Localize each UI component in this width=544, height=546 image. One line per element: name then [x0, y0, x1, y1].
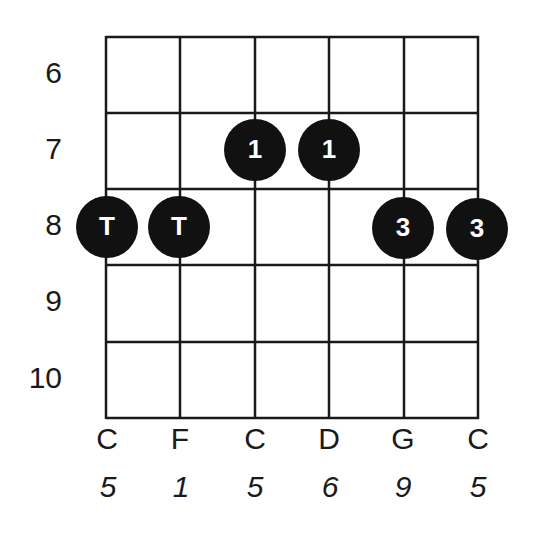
finger-dot: 1	[224, 119, 286, 181]
interval-labels: 5 1 5 6 9 5	[100, 470, 487, 503]
finger-dot: 3	[372, 197, 434, 259]
interval-label: 6	[322, 470, 339, 503]
note-label: C	[244, 422, 266, 455]
note-label: C	[467, 422, 489, 455]
fret-labels: 6 7 8 9 10	[29, 56, 62, 394]
finger-label: 3	[396, 212, 410, 242]
finger-label: 1	[248, 134, 262, 164]
finger-label: 1	[322, 134, 336, 164]
finger-dot: T	[76, 196, 138, 258]
interval-label: 1	[173, 470, 190, 503]
note-label: C	[96, 422, 118, 455]
finger-label: T	[171, 211, 187, 241]
chord-diagram: 6 7 8 9 10 T T 1 1 3 3	[0, 0, 544, 546]
note-labels: C F C D G C	[96, 422, 489, 455]
interval-label: 5	[470, 470, 487, 503]
interval-label: 5	[247, 470, 264, 503]
note-label: G	[391, 422, 414, 455]
note-label: D	[318, 422, 340, 455]
fret-label: 9	[45, 284, 62, 317]
interval-label: 5	[100, 470, 117, 503]
fret-label: 6	[45, 56, 62, 89]
fret-label: 8	[45, 208, 62, 241]
fret-label: 7	[45, 132, 62, 165]
finger-label: T	[99, 211, 115, 241]
note-label: F	[171, 422, 189, 455]
interval-label: 9	[395, 470, 412, 503]
finger-dot: 3	[446, 198, 508, 260]
fret-label: 10	[29, 361, 62, 394]
finger-label: 3	[470, 213, 484, 243]
finger-dot: T	[148, 196, 210, 258]
finger-dot: 1	[298, 119, 360, 181]
